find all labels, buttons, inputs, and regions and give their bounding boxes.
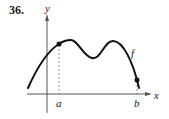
function-curve bbox=[28, 40, 139, 88]
x-axis bbox=[27, 92, 152, 96]
y-axis-label: y bbox=[45, 3, 50, 14]
point-a-label: a bbox=[56, 98, 62, 109]
y-axis bbox=[45, 14, 49, 113]
function-label: f bbox=[131, 48, 134, 59]
point-b-label: b bbox=[134, 98, 140, 109]
graph-figure: 36. y x f a b bbox=[0, 0, 169, 119]
point-a-marker bbox=[57, 42, 62, 47]
graph-canvas bbox=[0, 0, 169, 119]
x-axis-label: x bbox=[154, 90, 159, 101]
point-b-marker bbox=[135, 78, 140, 83]
